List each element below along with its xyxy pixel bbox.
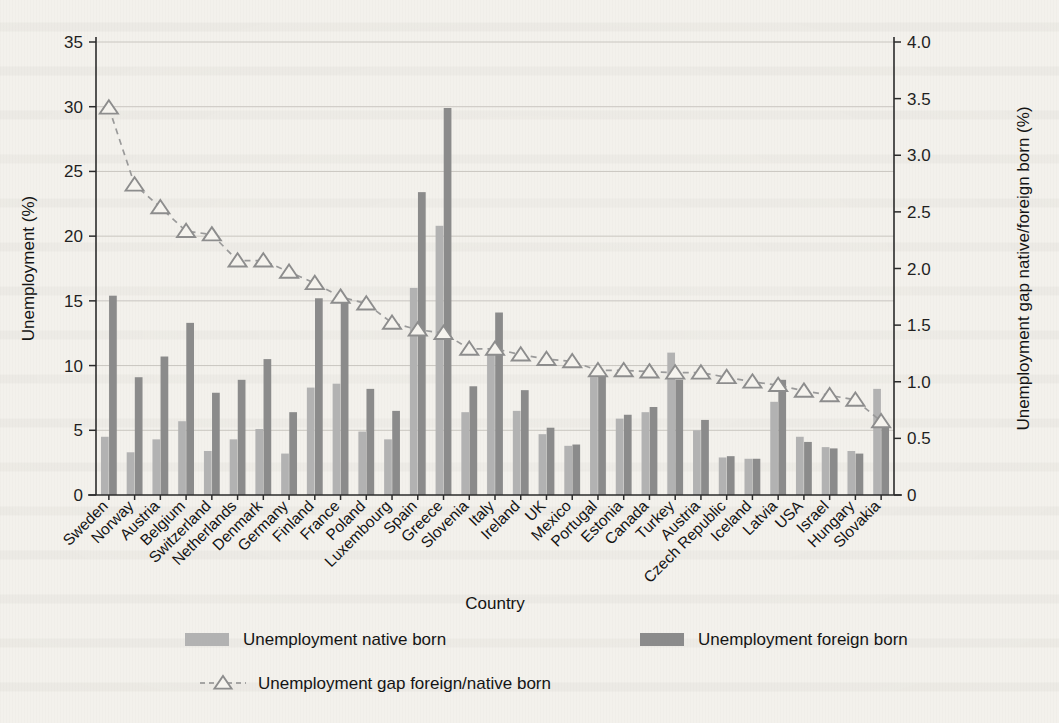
- y-tick-label-right: 3.5: [907, 90, 931, 109]
- bar-group: [513, 390, 529, 495]
- bar-native-born: [564, 446, 572, 495]
- y-tick-label-right: 4.0: [907, 33, 931, 52]
- bar-native-born: [307, 388, 315, 495]
- bar-native-born: [847, 451, 855, 495]
- legend-label: Unemployment foreign born: [698, 630, 908, 649]
- y-tick-label-right: 2.0: [907, 260, 931, 279]
- bar-group: [642, 407, 658, 495]
- gap-marker: [821, 388, 839, 401]
- bar-foreign-born: [341, 300, 349, 495]
- chart-figure: 0510152025303500.51.01.52.02.53.03.54.0S…: [0, 0, 1059, 723]
- bar-foreign-born: [650, 407, 658, 495]
- bar-foreign-born: [418, 192, 426, 495]
- y-tick-label-left: 5: [74, 421, 83, 440]
- gap-marker: [126, 177, 144, 190]
- bar-group: [281, 412, 297, 495]
- gap-marker: [280, 264, 298, 277]
- bar-foreign-born: [495, 313, 503, 495]
- gap-marker: [795, 383, 813, 396]
- bar-native-born: [204, 451, 212, 495]
- legend: Unemployment native bornUnemployment for…: [185, 630, 908, 693]
- bar-native-born: [281, 454, 289, 495]
- y-tick-label-right: 0: [907, 486, 916, 505]
- gap-marker: [357, 296, 375, 309]
- bar-group: [847, 451, 863, 495]
- bar-native-born: [513, 411, 521, 495]
- bar-native-born: [152, 439, 160, 495]
- axis-labels-group: 0510152025303500.51.01.52.02.53.03.54.0S…: [19, 33, 1033, 613]
- bar-group: [384, 411, 400, 495]
- bar-group: [719, 456, 735, 495]
- bar-group: [564, 445, 580, 495]
- bar-foreign-born: [881, 425, 889, 495]
- legend-item: Unemployment foreign born: [640, 630, 908, 649]
- legend-swatch: [640, 633, 684, 646]
- bar-group: [410, 192, 426, 495]
- bar-native-born: [487, 354, 495, 495]
- y-tick-label-right: 2.5: [907, 203, 931, 222]
- bars-group: [101, 108, 889, 495]
- gap-marker: [589, 363, 607, 376]
- y-tick-label-left: 0: [74, 486, 83, 505]
- bar-native-born: [770, 402, 778, 495]
- bar-foreign-born: [778, 380, 786, 495]
- bar-foreign-born: [701, 420, 709, 495]
- bar-group: [152, 357, 168, 495]
- x-axis-title: Country: [465, 594, 525, 613]
- bar-group: [770, 380, 786, 495]
- bar-group: [333, 300, 349, 495]
- y-tick-label-right: 3.0: [907, 146, 931, 165]
- bar-foreign-born: [572, 445, 580, 495]
- y-tick-label-left: 20: [64, 227, 83, 246]
- legend-item: Unemployment native born: [185, 630, 446, 649]
- y-tick-label-left: 30: [64, 98, 83, 117]
- bar-group: [873, 389, 889, 495]
- gap-marker: [151, 200, 169, 213]
- bar-group: [539, 428, 555, 495]
- bar-group: [796, 437, 812, 495]
- legend-label: Unemployment native born: [243, 630, 446, 649]
- bar-native-born: [590, 377, 598, 495]
- bar-group: [590, 376, 606, 495]
- gap-line-group: [100, 100, 890, 427]
- legend-label: Unemployment gap foreign/native born: [258, 674, 551, 693]
- gap-marker: [743, 374, 761, 387]
- bar-group: [822, 447, 838, 495]
- bar-group: [616, 415, 632, 495]
- bar-group: [255, 359, 271, 495]
- bar-native-born: [616, 419, 624, 495]
- bar-native-born: [796, 437, 804, 495]
- bar-native-born: [230, 439, 238, 495]
- bar-foreign-born: [727, 456, 735, 495]
- bar-foreign-born: [264, 359, 272, 495]
- bar-foreign-born: [315, 298, 323, 495]
- bar-group: [307, 298, 323, 495]
- gap-marker: [460, 342, 478, 355]
- bar-native-born: [127, 452, 135, 495]
- bar-foreign-born: [753, 459, 761, 495]
- bar-foreign-born: [212, 393, 220, 495]
- bar-native-born: [333, 384, 341, 495]
- bar-foreign-born: [675, 380, 683, 495]
- bar-foreign-born: [469, 386, 477, 495]
- gap-marker: [229, 253, 247, 266]
- bar-foreign-born: [521, 390, 529, 495]
- bar-foreign-born: [598, 376, 606, 495]
- gap-line-path: [109, 108, 881, 422]
- gap-marker: [332, 289, 350, 302]
- bar-native-born: [410, 288, 418, 495]
- bar-group: [693, 420, 709, 495]
- bar-native-born: [384, 439, 392, 495]
- bar-group: [204, 393, 220, 495]
- bar-native-born: [693, 430, 701, 495]
- y-tick-label-left: 25: [64, 162, 83, 181]
- bar-native-born: [539, 434, 547, 495]
- bar-group: [230, 380, 246, 495]
- y-axis-title-right: Unemployment gap native/foreign born (%): [1014, 106, 1033, 430]
- bar-group: [358, 389, 374, 495]
- bar-foreign-born: [238, 380, 246, 495]
- y-tick-label-left: 15: [64, 292, 83, 311]
- bar-group: [127, 377, 143, 495]
- bar-native-born: [101, 437, 109, 495]
- bar-foreign-born: [366, 389, 374, 495]
